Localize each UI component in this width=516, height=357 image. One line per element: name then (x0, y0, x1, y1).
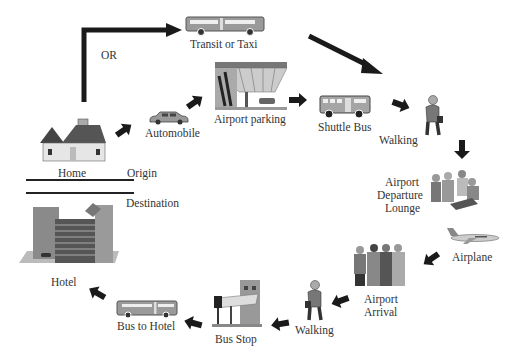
arrow-airplane-to-arrival (421, 250, 441, 268)
destination-label: Destination (126, 197, 179, 210)
walking-person-icon (304, 280, 326, 322)
or-label: OR (101, 49, 117, 62)
airport-parking-label: Airport parking (214, 113, 286, 126)
departure-lounge-label-line1: Airport (385, 176, 419, 189)
lounge-people-icon (428, 168, 482, 212)
automobile-label: Automobile (145, 127, 200, 140)
arrow-parking-to-shuttle (288, 93, 308, 107)
destination-divider (26, 192, 134, 194)
bus-icon (116, 299, 178, 319)
airplane-label: Airplane (452, 251, 492, 264)
arrival-label-line2: Arrival (364, 306, 397, 319)
arrival-label-line1: Airport (364, 293, 398, 306)
hotel-building-icon (19, 201, 121, 269)
arrow-bus-to-hotel (87, 285, 107, 301)
origin-divider (26, 179, 134, 181)
walking-2-label: Walking (295, 324, 334, 337)
hotel-label: Hotel (51, 276, 77, 289)
arrow-home-to-automobile (114, 122, 134, 138)
car-icon (148, 110, 190, 126)
arrow-walking-to-lounge (454, 138, 470, 160)
bus-stop-label: Bus Stop (215, 333, 257, 346)
walking-1-label: Walking (379, 134, 418, 147)
walking-person-icon (422, 95, 444, 137)
arrow-arrival-to-walking (330, 293, 350, 309)
arrival-people-icon (352, 242, 408, 288)
bus-stop-icon (212, 280, 262, 327)
arrow-walking-to-busstop (270, 316, 290, 332)
shuttle-bus-icon (319, 95, 371, 119)
bus-to-hotel-label: Bus to Hotel (117, 320, 175, 333)
departure-lounge-label-line3: Lounge (385, 202, 420, 215)
arrow-shuttle-to-walking (391, 97, 411, 113)
transit-label: Transit or Taxi (190, 38, 258, 51)
transit-to-walking-arrow (305, 32, 385, 77)
parking-garage-icon (215, 62, 287, 110)
departure-lounge-label-line2: Departure (377, 189, 423, 202)
house-icon (40, 117, 108, 163)
or-path-arrow (78, 20, 188, 105)
airplane-icon (445, 226, 501, 246)
arrow-automobile-to-parking (185, 94, 205, 110)
arrow-busstop-to-bus (183, 315, 203, 331)
shuttle-bus-label: Shuttle Bus (318, 121, 371, 134)
transit-bus-icon (185, 15, 265, 37)
